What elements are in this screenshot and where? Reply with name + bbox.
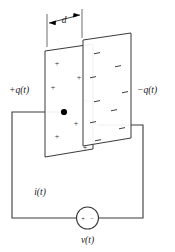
plus-sign-6: + <box>55 132 60 141</box>
voltage-source: + − <box>77 207 99 229</box>
right-plate <box>83 33 131 146</box>
voltage-source-circle <box>77 207 99 229</box>
plus-sign-1: + <box>55 59 60 68</box>
left-charge-label: +q(t) <box>9 85 29 96</box>
dimension-arrowhead-right-icon <box>73 13 80 18</box>
plus-sign-3: + <box>51 83 56 92</box>
voltage-source-plus-label: + <box>81 215 85 222</box>
voltage-label: v(t) <box>81 235 94 246</box>
dimension-arrowhead-left-icon <box>49 21 56 26</box>
capacitor-circuit-figure: + + + + + + + <box>0 0 175 252</box>
right-charge-label: −q(t) <box>137 85 157 96</box>
separation-distance-label: d <box>62 15 67 25</box>
plus-sign-2: + <box>77 73 82 82</box>
current-label: i(t) <box>34 187 46 198</box>
voltage-source-minus-label: − <box>90 215 94 222</box>
plus-sign-5: + <box>74 119 79 128</box>
left-plate-terminal-dot <box>61 109 67 115</box>
right-plate-surface <box>83 33 131 146</box>
